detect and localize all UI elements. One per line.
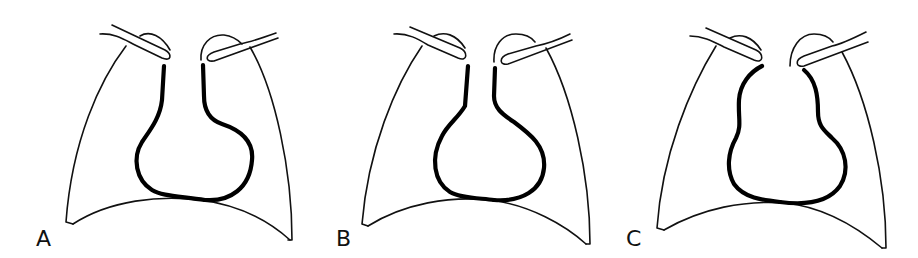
panel-label-a: A (36, 228, 51, 250)
panel-c: C (610, 0, 918, 258)
right-clavicle (501, 34, 572, 64)
left-lung-border (66, 46, 126, 224)
chest-outline-b (310, 0, 610, 258)
left-clavicle (100, 25, 170, 59)
heart-right-border (494, 68, 544, 200)
heart-left-border (137, 66, 205, 200)
heart-left-border (435, 66, 494, 200)
diaphragm (664, 202, 882, 248)
chest-outline-a (0, 0, 310, 258)
chest-diagram-figure: A B C (0, 0, 918, 258)
left-lung-border (362, 46, 422, 226)
panel-label-c: C (626, 228, 641, 250)
left-lung-border (657, 46, 716, 230)
heart-left-border (729, 66, 780, 202)
left-clavicle (394, 27, 466, 59)
left-clavicle (690, 28, 762, 61)
chest-outline-c (610, 0, 918, 258)
right-humeral-head (790, 34, 833, 66)
heart-right-border (203, 65, 252, 200)
right-lung-border (250, 47, 292, 240)
panel-a: A (0, 0, 310, 258)
panel-b: B (310, 0, 610, 258)
left-humeral-head (140, 34, 170, 50)
right-lung-border (546, 48, 590, 244)
panel-label-b: B (336, 228, 351, 250)
right-clavicle (207, 33, 278, 61)
right-clavicle (797, 32, 868, 66)
diaphragm (368, 199, 586, 244)
right-lung-border (842, 52, 886, 248)
left-humeral-head (434, 34, 465, 48)
heart-right-border (780, 70, 846, 203)
diaphragm (73, 198, 290, 240)
left-humeral-head (730, 36, 761, 50)
